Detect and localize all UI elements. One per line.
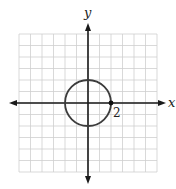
x-axis-left-arrow-icon	[9, 100, 17, 106]
marked-point-dot	[109, 101, 114, 106]
coordinate-plane: 2 x y	[0, 0, 176, 189]
y-axis-label: y	[83, 5, 92, 20]
x-axis-right-arrow-icon	[158, 100, 166, 106]
y-axis-top-arrow-icon	[85, 23, 91, 31]
x-axis-label: x	[168, 95, 176, 110]
y-axis-bottom-arrow-icon	[85, 176, 91, 184]
point-label: 2	[113, 106, 121, 120]
